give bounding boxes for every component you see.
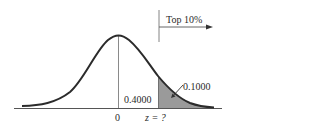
left-area-label: 0.4000	[124, 95, 152, 105]
top-10-percent-label: Top 10%	[166, 15, 202, 25]
arrow-right-icon	[206, 25, 213, 30]
z-value-label: z = ?	[145, 113, 166, 123]
right-tail-label: 0.1000	[183, 82, 211, 92]
tail-pointer-line	[173, 85, 183, 96]
mean-tick-label: 0	[115, 113, 120, 123]
